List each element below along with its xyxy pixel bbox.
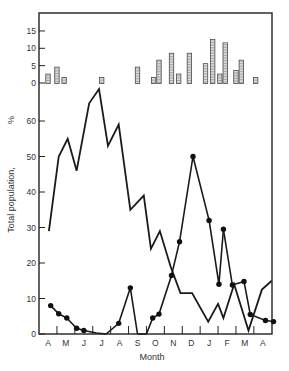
plot-frame xyxy=(39,13,272,334)
data-point-marker xyxy=(81,328,86,333)
data-point-marker xyxy=(230,282,235,287)
main-y-tick-label: 40 xyxy=(27,187,37,197)
data-point-marker xyxy=(64,315,69,320)
data-point-marker xyxy=(177,239,182,244)
data-point-marker xyxy=(74,326,79,331)
x-tick-label: D xyxy=(188,338,194,348)
y-axis-title: Total population, xyxy=(6,167,16,233)
data-point-marker xyxy=(206,218,211,223)
data-point-marker xyxy=(241,279,246,284)
top-y-tick-label: 0 xyxy=(31,78,36,88)
data-point-marker xyxy=(56,311,61,316)
top-y-tick-label: 15 xyxy=(27,26,37,36)
main-y-tick-label: 60 xyxy=(27,116,37,126)
data-point-marker xyxy=(156,311,161,316)
x-tick-label: M xyxy=(62,338,69,348)
x-tick-label: M xyxy=(241,338,248,348)
data-point-marker xyxy=(248,312,253,317)
main-y-axis: 0102030405060 xyxy=(27,116,45,339)
x-tick-label: N xyxy=(170,338,176,348)
data-point-marker xyxy=(221,227,226,232)
x-tick-label: A xyxy=(45,338,51,348)
y-axis-unit: % xyxy=(6,116,16,124)
x-axis-title: Month xyxy=(139,352,164,362)
main-y-tick-label: 0 xyxy=(31,329,36,339)
main-y-tick-label: 30 xyxy=(27,223,37,233)
data-point-marker xyxy=(190,154,195,159)
marker-series-line xyxy=(138,275,172,334)
x-tick-label: A xyxy=(117,338,123,348)
data-point-marker xyxy=(271,319,276,324)
x-tick-label: O xyxy=(152,338,159,348)
top-inset-y-axis: 051015 xyxy=(27,26,45,88)
data-point-marker xyxy=(116,321,121,326)
top-y-tick-label: 10 xyxy=(27,43,37,53)
x-tick-label: A xyxy=(260,338,266,348)
x-tick-label: S xyxy=(135,338,141,348)
data-point-marker xyxy=(128,285,133,290)
total-population-line xyxy=(49,89,272,330)
marker-series-line xyxy=(223,229,273,321)
main-y-tick-label: 10 xyxy=(27,294,37,304)
chart-figure: 051015 0102030405060 AMJJASONDJFMA Month… xyxy=(0,0,289,371)
x-tick-label: F xyxy=(224,338,229,348)
plot-lines xyxy=(48,89,276,334)
top-y-tick-label: 5 xyxy=(31,61,36,71)
data-point-marker xyxy=(48,303,53,308)
marker-series-line xyxy=(172,157,210,276)
top-inset-bars xyxy=(46,39,258,83)
x-tick-label: J xyxy=(207,338,211,348)
main-y-tick-label: 50 xyxy=(27,152,37,162)
x-tick-label: J xyxy=(82,338,86,348)
main-y-tick-label: 20 xyxy=(27,258,37,268)
data-point-marker xyxy=(263,318,268,323)
data-point-marker xyxy=(216,282,221,287)
data-point-marker xyxy=(169,273,174,278)
data-point-marker xyxy=(150,315,155,320)
x-tick-label: J xyxy=(100,338,104,348)
